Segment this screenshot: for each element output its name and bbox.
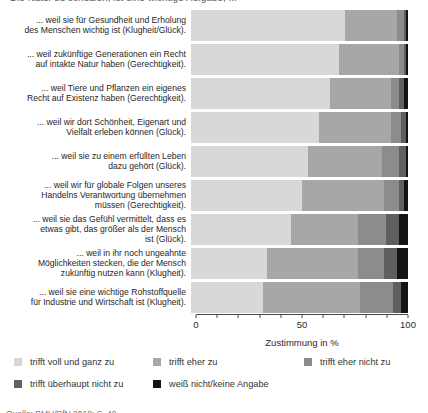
axis-tick	[217, 315, 218, 318]
axis-tick	[238, 315, 239, 318]
bar-segment	[404, 78, 408, 109]
bar-segment	[302, 180, 384, 211]
stacked-bar	[191, 146, 408, 177]
category-label: ... weil sie das Gefühl vermittelt, dass…	[0, 214, 191, 245]
cropped-heading-fragment: Die Natur zu schützen, ist eine wichtige…	[0, 0, 428, 4]
bar-segment	[339, 44, 400, 75]
bar-segment	[267, 248, 358, 279]
bar-segment	[401, 282, 408, 313]
chart-row: ... weil Tiere und Pflanzen ein eigenesR…	[0, 76, 408, 110]
category-label-line: etwas gibt, das größer als der Mensch	[0, 224, 186, 234]
bar-segment	[358, 248, 384, 279]
bar-segment	[191, 112, 319, 143]
legend-swatch-icon	[14, 358, 22, 366]
stacked-bar	[191, 78, 408, 109]
category-label: ... weil zukünftige Generationen ein Rec…	[0, 49, 191, 70]
bar-segment	[391, 112, 402, 143]
bar-segment	[360, 282, 393, 313]
category-label-line: des Menschen wichtig ist (Klugheit/Glück…	[0, 25, 186, 35]
legend-label: trifft überhaupt nicht zu	[30, 379, 123, 389]
legend-swatch-icon	[304, 358, 312, 366]
chart-row: ... weil sie eine wichtige Rohstoffquell…	[0, 280, 408, 314]
bar-segment	[406, 146, 408, 177]
bar-segment	[384, 248, 397, 279]
bar-segment	[191, 146, 308, 177]
stacked-bar-chart: ... weil sie für Gesundheit und Erholung…	[0, 8, 428, 350]
chart-row: ... weil wir für globale Folgen unseresH…	[0, 178, 408, 212]
chart-row: ... weil wir dort Schönheit, Eigenart un…	[0, 110, 408, 144]
bar-segment	[391, 78, 400, 109]
chart-row: ... weil zukünftige Generationen ein Rec…	[0, 42, 408, 76]
category-label-line: ... weil Tiere und Pflanzen ein eigenes	[0, 83, 186, 93]
x-axis-title: Zustimmung in %	[265, 337, 338, 348]
bar-segment	[406, 112, 408, 143]
axis-tick	[280, 315, 281, 318]
bar-segment	[382, 146, 399, 177]
stacked-bar	[191, 282, 408, 313]
bar-segment	[308, 146, 382, 177]
bar-segment	[191, 180, 302, 211]
legend-item: trifft eher nicht zu	[304, 357, 390, 367]
bar-segment	[191, 214, 291, 245]
bar-segment	[191, 44, 339, 75]
legend-swatch-icon	[153, 380, 161, 388]
axis-tick	[323, 315, 324, 318]
stacked-bar	[191, 180, 408, 211]
bar-segment	[345, 10, 397, 41]
chart-row: ... weil sie zu einem erfüllten Lebendaz…	[0, 144, 408, 178]
bar-segment	[384, 180, 399, 211]
bar-segment	[397, 248, 408, 279]
chart-figure: Die Natur zu schützen, ist eine wichtige…	[0, 0, 428, 413]
category-label: ... weil in ihr noch ungeahnteMöglichkei…	[0, 248, 191, 279]
category-label-line: müssen (Gerechtigkeit).	[0, 200, 186, 210]
category-label-line: ... weil zukünftige Generationen ein Rec…	[0, 49, 186, 59]
stacked-bar	[191, 214, 408, 245]
bar-segment	[330, 78, 391, 109]
category-label-line: Möglichkeiten stecken, die der Mensch	[0, 258, 186, 268]
category-label: ... weil sie zu einem erfüllten Lebendaz…	[0, 151, 191, 172]
x-axis-title-wrap: Zustimmung in %	[196, 332, 408, 350]
chart-row: ... weil sie für Gesundheit und Erholung…	[0, 8, 408, 42]
category-label-line: Handelns Verantwortung übernehmen	[0, 190, 186, 200]
category-label-line: Recht auf Existenz haben (Gerechtigkeit)…	[0, 93, 186, 103]
chart-row: ... weil in ihr noch ungeahnteMöglichkei…	[0, 246, 408, 280]
legend-label: weiß nicht/keine Angabe	[169, 379, 269, 389]
bar-segment	[386, 214, 399, 245]
axis-tick	[365, 315, 366, 318]
axis-tick	[386, 315, 387, 318]
category-label-line: für Industrie und Wirtschaft ist (Klughe…	[0, 297, 186, 307]
bar-segment	[263, 282, 361, 313]
category-label-line: dazu gehört (Glück).	[0, 161, 186, 171]
bar-segment	[191, 78, 330, 109]
axis-tick	[259, 315, 260, 318]
bar-segment	[406, 44, 408, 75]
stacked-bar	[191, 248, 408, 279]
category-label-line: ... weil sie zu einem erfüllten Leben	[0, 151, 186, 161]
axis-tick	[408, 315, 409, 318]
chart-row: ... weil sie das Gefühl vermittelt, dass…	[0, 212, 408, 246]
bar-segment	[406, 10, 408, 41]
stacked-bar	[191, 10, 408, 41]
category-label: ... weil sie eine wichtige Rohstoffquell…	[0, 287, 191, 308]
axis-tick	[302, 315, 303, 318]
category-label: ... weil wir für globale Folgen unseresH…	[0, 180, 191, 211]
legend-item: trifft eher zu	[153, 357, 217, 367]
category-label-line: Vielfalt erleben können (Glück).	[0, 127, 186, 137]
bar-segment	[191, 248, 267, 279]
x-axis-tick-labels: 050100	[196, 319, 408, 331]
bar-segment	[399, 214, 408, 245]
category-label-line: ... weil sie das Gefühl vermittelt, dass…	[0, 214, 186, 224]
legend-item: trifft voll und ganz zu	[14, 357, 114, 367]
bar-segment	[358, 214, 386, 245]
legend-swatch-icon	[14, 380, 22, 388]
legend-item: trifft überhaupt nicht zu	[14, 379, 123, 389]
x-tick-label: 50	[297, 319, 308, 330]
category-label-line: ... weil wir dort Schönheit, Eigenart un…	[0, 117, 186, 127]
stacked-bar	[191, 44, 408, 75]
category-label: ... weil sie für Gesundheit und Erholung…	[0, 15, 191, 36]
bar-segment	[319, 112, 391, 143]
chart-rows: ... weil sie für Gesundheit und Erholung…	[0, 8, 408, 314]
legend-label: trifft voll und ganz zu	[30, 357, 114, 367]
category-label-line: ... weil in ihr noch ungeahnte	[0, 248, 186, 258]
category-label-line: ... weil wir für globale Folgen unseres	[0, 180, 186, 190]
